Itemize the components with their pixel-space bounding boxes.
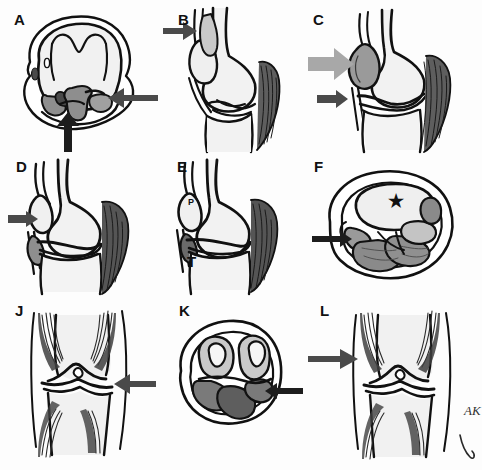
panel-l-spine xyxy=(396,370,405,380)
panel-b: B xyxy=(155,0,305,155)
panel-a-label: A xyxy=(14,12,25,27)
panel-a-vessel-1 xyxy=(32,68,39,80)
panel-a-mass-right xyxy=(89,94,112,112)
panel-l-illustration xyxy=(300,295,482,470)
panel-a-vessel-2 xyxy=(44,58,49,67)
panel-j-illustration xyxy=(0,295,160,470)
panel-f-mass-5 xyxy=(421,198,442,224)
panel-l-label: L xyxy=(320,303,329,318)
panel-c-arrow-left-dark xyxy=(317,90,348,108)
artist-signature-mark xyxy=(460,435,474,458)
panel-c-tendon-2 xyxy=(352,88,358,130)
knee-figure-panel-grid: A xyxy=(0,0,482,470)
panel-k: K xyxy=(155,295,305,470)
panel-e: E xyxy=(155,150,305,295)
panel-d-patella xyxy=(30,196,53,233)
panel-c-label: C xyxy=(313,12,324,27)
panel-j-skin-left xyxy=(31,313,36,447)
panel-l-skin-left xyxy=(353,315,358,449)
panel-f-label: F xyxy=(314,159,323,174)
panel-j-spine xyxy=(74,368,83,378)
panel-e-tibia-marker: T xyxy=(187,254,196,269)
panel-c-patella xyxy=(349,44,380,89)
panel-j: J xyxy=(0,295,160,470)
panel-c-femur xyxy=(372,10,424,108)
panel-d-label: D xyxy=(16,159,27,174)
panel-b-label: B xyxy=(178,12,189,27)
artist-signature: AK xyxy=(464,403,481,419)
panel-e-label: E xyxy=(177,159,187,174)
panel-d: D xyxy=(0,150,160,295)
panel-k-label: K xyxy=(179,303,190,318)
panel-k-condyle-right-inner xyxy=(249,341,265,366)
panel-k-condyle-left-inner xyxy=(209,343,226,366)
panel-l: L xyxy=(300,295,482,470)
panel-c-illustration xyxy=(300,0,482,155)
panel-f: F xyxy=(300,150,482,295)
panel-f-illustration xyxy=(300,150,482,295)
panel-c: C xyxy=(300,0,482,155)
panel-a: A xyxy=(0,0,160,155)
panel-f-star-marker: ★ xyxy=(388,192,404,210)
panel-k-illustration xyxy=(155,295,305,470)
panel-l-arrow-left-dark xyxy=(308,349,358,369)
panel-j-label: J xyxy=(15,303,24,318)
panel-l-skin-right xyxy=(444,313,450,451)
panel-e-patella-marker: P xyxy=(188,198,194,207)
panel-c-arrow-left-gray xyxy=(308,48,354,80)
panel-j-arrow-right-dark xyxy=(114,374,156,394)
